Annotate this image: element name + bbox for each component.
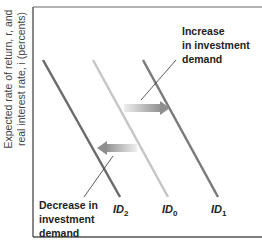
- label-id2-name: ID: [113, 203, 124, 215]
- label-id2: ID2: [113, 203, 128, 218]
- shift-right-arrow-icon: [124, 101, 170, 115]
- label-id1: ID1: [211, 203, 226, 218]
- increase-annotation: Increase in investment demand: [182, 24, 250, 66]
- label-id0: ID0: [162, 203, 177, 218]
- label-id0-name: ID: [162, 203, 173, 215]
- decrease-line2: investment: [39, 212, 98, 226]
- label-id0-sub: 0: [173, 209, 177, 218]
- increase-line2: in investment: [182, 38, 250, 52]
- curve-id1: [143, 60, 218, 197]
- label-id2-sub: 2: [124, 209, 128, 218]
- increase-line3: demand: [182, 52, 250, 66]
- curve-id0: [93, 60, 168, 197]
- label-id1-sub: 1: [222, 209, 226, 218]
- shift-left-arrow-icon: [97, 141, 137, 155]
- decrease-line1: Decrease in: [39, 198, 98, 212]
- increase-line1: Increase: [182, 24, 250, 38]
- decrease-annotation: Decrease in investment demand: [39, 198, 98, 240]
- label-id1-name: ID: [211, 203, 222, 215]
- decrease-line3: demand: [39, 226, 98, 240]
- curve-id2: [43, 60, 120, 197]
